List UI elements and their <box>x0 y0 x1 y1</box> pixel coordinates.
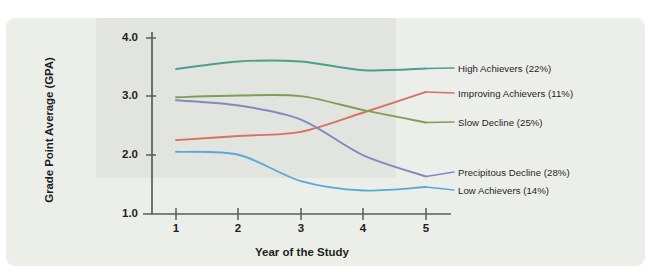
series-line-2 <box>176 95 426 123</box>
x-tick-label-1: 1 <box>166 222 186 234</box>
leader-lines-group <box>426 68 454 190</box>
x-tick-label-3: 3 <box>291 222 311 234</box>
x-axis-title: Year of the Study <box>176 246 428 258</box>
y-tick-label-3: 3.0 <box>104 89 138 101</box>
y-axis-title: Grade Point Average (GPA) <box>43 35 55 225</box>
series-label-improving-achievers: Improving Achievers (11%) <box>458 88 573 99</box>
series-leader-1 <box>426 92 454 93</box>
series-line-0 <box>176 61 426 71</box>
series-label-slow-decline: Slow Decline (25%) <box>458 117 543 128</box>
series-leader-4 <box>426 187 454 190</box>
series-paths-group <box>176 61 426 191</box>
line-chart-plot <box>0 0 651 273</box>
x-tick-label-4: 4 <box>353 222 373 234</box>
x-tick-label-2: 2 <box>228 222 248 234</box>
y-tick-label-4: 4.0 <box>104 31 138 43</box>
series-line-4 <box>176 152 426 191</box>
series-leader-0 <box>426 68 454 69</box>
series-label-high-achievers: High Achievers (22%) <box>458 63 551 74</box>
y-tick-label-2: 2.0 <box>104 148 138 160</box>
chart-figure: Grade Point Average (GPA) 4.0 3.0 2.0 1.… <box>0 0 651 273</box>
series-label-low-achievers: Low Achievers (14%) <box>458 185 549 196</box>
series-label-precipitous-decline: Precipitous Decline (28%) <box>458 167 570 178</box>
y-tick-label-1: 1.0 <box>104 207 138 219</box>
series-leader-3 <box>426 172 454 176</box>
x-tick-label-5: 5 <box>416 222 436 234</box>
